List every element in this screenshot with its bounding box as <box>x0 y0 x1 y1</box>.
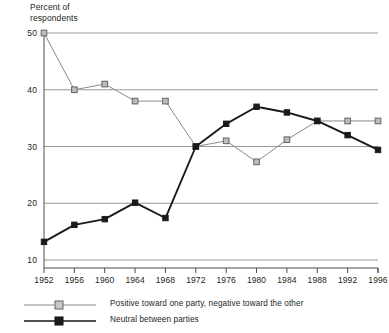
x-axis-tick-label: 1968 <box>156 275 175 285</box>
x-axis-tick-label: 1964 <box>125 275 144 285</box>
y-axis-tick-label: 20 <box>27 198 37 208</box>
data-point-marker <box>102 216 107 221</box>
chart-legend: Positive toward one party, negative towa… <box>0 298 389 330</box>
data-point-marker <box>284 110 289 115</box>
data-point-marker <box>345 132 350 137</box>
data-point-marker <box>345 118 351 124</box>
series-line <box>44 107 378 242</box>
data-point-marker <box>41 30 47 36</box>
y-axis-tick-label: 50 <box>27 28 37 38</box>
x-axis-tick-label: 1996 <box>368 275 387 285</box>
legend-item-positive: Positive toward one party, negative towa… <box>0 298 389 314</box>
y-axis-tick-label: 10 <box>27 255 37 265</box>
x-axis-tick-label: 1952 <box>34 275 53 285</box>
x-axis-tick-label: 1988 <box>308 275 327 285</box>
legend-item-neutral: Neutral between parties <box>0 314 389 330</box>
chart-container: Percent ofrespondents 102030405019521956… <box>0 0 389 333</box>
data-point-marker <box>132 98 138 104</box>
legend-label-neutral: Neutral between parties <box>110 314 199 325</box>
data-point-marker <box>132 200 137 205</box>
y-axis-tick-label: 40 <box>27 85 37 95</box>
data-point-marker <box>254 104 259 109</box>
x-axis-tick-label: 1960 <box>95 275 114 285</box>
data-point-marker <box>223 138 229 144</box>
line-chart-plot: 1020304050195219561960196419681972197619… <box>0 0 389 300</box>
x-axis-tick-label: 1976 <box>217 275 236 285</box>
data-point-marker <box>193 144 198 149</box>
data-point-marker <box>41 239 46 244</box>
legend-swatch-positive <box>22 298 102 312</box>
data-point-marker <box>72 222 77 227</box>
x-axis-tick-label: 1972 <box>186 275 205 285</box>
x-axis-tick-label: 1980 <box>247 275 266 285</box>
x-axis-tick-label: 1984 <box>277 275 296 285</box>
data-point-marker <box>102 81 108 87</box>
series-line <box>44 33 378 162</box>
data-point-marker <box>223 121 228 126</box>
data-point-marker <box>315 118 320 123</box>
y-axis-tick-label: 30 <box>27 142 37 152</box>
data-point-marker <box>254 159 260 165</box>
data-point-marker <box>72 87 78 93</box>
legend-swatch-neutral <box>22 314 102 328</box>
legend-label-positive: Positive toward one party, negative towa… <box>110 298 303 309</box>
data-point-marker <box>284 137 290 143</box>
data-point-marker <box>375 147 380 152</box>
data-point-marker <box>163 98 169 104</box>
x-axis-tick-label: 1956 <box>65 275 84 285</box>
x-axis-tick-label: 1992 <box>338 275 357 285</box>
data-point-marker <box>375 118 381 124</box>
data-point-marker <box>163 215 168 220</box>
